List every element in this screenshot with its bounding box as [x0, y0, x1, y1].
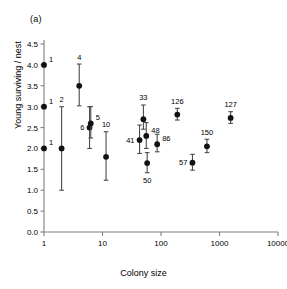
data-marker — [41, 104, 47, 110]
y-tick-label: 2.0 — [27, 144, 39, 153]
data-point: 1 — [41, 55, 53, 68]
data-point-label: 1 — [49, 55, 53, 64]
y-tick-label: 0.5 — [27, 207, 39, 216]
data-marker — [140, 116, 146, 122]
scatter-plot: 0.00.51.01.52.02.53.03.54.04.51101001000… — [0, 0, 287, 289]
data-point-label: 48 — [151, 126, 159, 135]
data-point-label: 5 — [96, 113, 100, 122]
data-point: 1 — [41, 138, 53, 151]
data-point: 150 — [201, 128, 214, 153]
x-tick-label: 1000 — [211, 239, 229, 248]
data-point-label: 33 — [139, 93, 147, 102]
data-marker — [137, 137, 143, 143]
data-point: 4 — [76, 53, 82, 106]
data-point-label: 41 — [126, 136, 134, 145]
data-point-label: 1 — [49, 138, 53, 147]
y-tick-label: 4.5 — [27, 40, 39, 49]
data-point: 2 — [59, 95, 65, 190]
data-marker — [228, 115, 234, 121]
figure-panel: (a) Young surviving / nest Colony size 0… — [0, 0, 287, 289]
data-marker — [174, 112, 180, 118]
data-point-label: 4 — [77, 53, 81, 62]
x-tick-label: 10 — [98, 239, 107, 248]
data-marker — [59, 146, 65, 152]
data-point-label: 6 — [80, 123, 84, 132]
data-point: 126 — [171, 97, 184, 120]
data-point: 1 — [41, 97, 53, 110]
data-marker — [144, 160, 150, 166]
y-tick-label: 2.5 — [27, 124, 39, 133]
data-point-label: 86 — [162, 134, 170, 143]
data-point-label: 2 — [60, 95, 64, 104]
data-point: 10 — [102, 120, 110, 180]
x-tick-label: 100 — [154, 239, 168, 248]
data-marker — [41, 62, 47, 68]
y-tick-label: 3.5 — [27, 82, 39, 91]
data-point-label: 126 — [171, 97, 184, 106]
y-tick-label: 1.5 — [27, 165, 39, 174]
y-tick-label: 1.0 — [27, 186, 39, 195]
data-point-label: 150 — [201, 128, 214, 137]
data-marker — [204, 143, 210, 149]
data-marker — [41, 146, 47, 152]
data-point-label: 10 — [102, 120, 110, 129]
data-point: 57 — [179, 154, 195, 170]
data-marker — [103, 154, 109, 160]
data-marker — [76, 83, 82, 89]
data-point-label: 50 — [143, 176, 151, 185]
data-marker — [88, 120, 94, 126]
data-marker — [190, 160, 196, 166]
x-tick-label: 10000 — [267, 239, 287, 248]
y-tick-label: 4.0 — [27, 61, 39, 70]
data-point-label: 57 — [179, 158, 187, 167]
data-point: 127 — [224, 100, 237, 123]
x-tick-label: 1 — [42, 239, 47, 248]
data-point: 50 — [143, 153, 151, 185]
data-point-label: 1 — [49, 97, 53, 106]
y-tick-label: 0.0 — [27, 228, 39, 237]
data-marker — [154, 141, 160, 147]
data-marker — [143, 133, 149, 139]
data-point: 41 — [126, 125, 142, 153]
y-tick-label: 3.0 — [27, 103, 39, 112]
data-point-label: 127 — [224, 100, 237, 109]
data-point: 86 — [154, 134, 170, 152]
